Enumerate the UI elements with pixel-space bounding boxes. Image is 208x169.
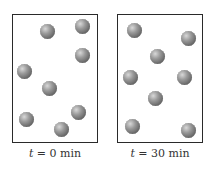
particle-icon [54, 122, 69, 137]
particle-icon [150, 49, 165, 64]
particle-icon [19, 112, 34, 127]
particle-icon [71, 105, 86, 120]
time-label-t30: t = 30 min [115, 147, 205, 160]
particle-icon [181, 123, 196, 138]
particle-icon [181, 31, 196, 46]
particle-icon [123, 70, 138, 85]
particle-icon [40, 24, 55, 39]
particle-icon [127, 23, 142, 38]
particle-icon [177, 70, 192, 85]
particle-icon [75, 48, 90, 63]
particle-icon [75, 19, 90, 34]
particle-icon [148, 91, 163, 106]
time-label-t0: t = 0 min [10, 147, 100, 160]
particle-icon [42, 81, 57, 96]
particle-icon [17, 64, 32, 79]
particle-icon [125, 119, 140, 134]
